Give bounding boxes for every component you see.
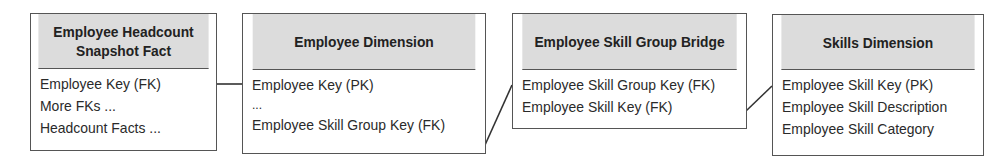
entity-title-line: Employee Headcount (53, 22, 193, 41)
attribute-row: Employee Skill Key (PK) (782, 74, 961, 96)
attribute-row: Employee Key (FK) (40, 73, 196, 95)
link-bridge-to-skills (746, 86, 772, 111)
entity-title-line: Snapshot Fact (76, 41, 171, 60)
entity-title: Skills Dimension (823, 33, 933, 52)
entity-employee-skill-group-bridge: Employee Skill Group Bridge Employee Ski… (512, 13, 747, 129)
entity-header: Skills Dimension (781, 15, 974, 70)
entity-attributes: Employee Key (PK) ... Employee Skill Gro… (243, 70, 485, 136)
attribute-row: Employee Key (PK) (252, 74, 461, 96)
entity-header: Employee Dimension (253, 14, 476, 70)
attribute-row: Headcount Facts ... (40, 117, 196, 139)
entity-title: Employee Skill Group Bridge (534, 32, 724, 51)
link-employee-to-bridge (485, 85, 512, 145)
entity-header: Employee Skill Group Bridge (522, 14, 736, 70)
entity-employee-dimension: Employee Dimension Employee Key (PK) ...… (242, 13, 486, 154)
attribute-row: ... (252, 96, 461, 114)
attribute-row: Employee Skill Key (FK) (522, 96, 723, 118)
entity-attributes: Employee Key (FK) More FKs ... Headcount… (31, 69, 216, 139)
entity-attributes: Employee Skill Group Key (FK) Employee S… (513, 70, 746, 118)
entity-header: Employee Headcount Snapshot Fact (38, 14, 208, 69)
entity-skills-dimension: Skills Dimension Employee Skill Key (PK)… (772, 14, 984, 156)
attribute-row: Employee Skill Group Key (FK) (522, 74, 723, 96)
entity-title: Employee Dimension (294, 32, 434, 51)
attribute-row: More FKs ... (40, 95, 196, 117)
entity-employee-headcount-snapshot-fact: Employee Headcount Snapshot Fact Employe… (30, 13, 217, 151)
attribute-row: Employee Skill Group Key (FK) (252, 114, 461, 136)
entity-attributes: Employee Skill Key (PK) Employee Skill D… (773, 70, 983, 140)
attribute-row: Employee Skill Category (782, 118, 961, 140)
attribute-row: Employee Skill Description (782, 96, 961, 118)
